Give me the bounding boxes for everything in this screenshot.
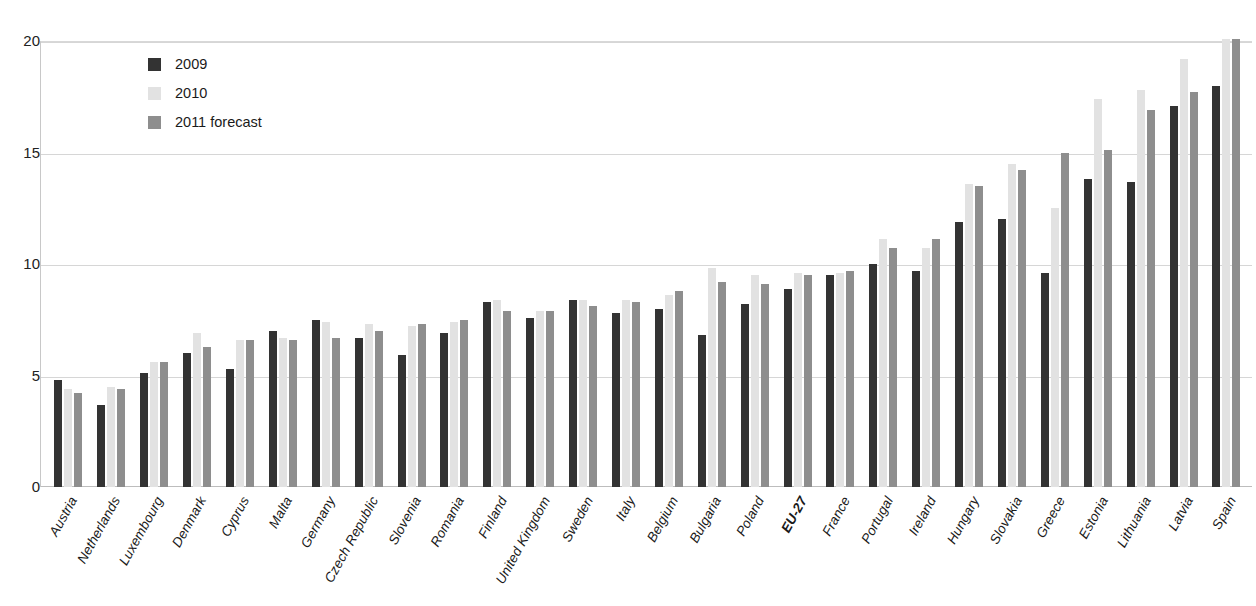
x-axis-tick-label: Greece xyxy=(1033,494,1068,541)
x-axis-tick-label: Poland xyxy=(734,494,768,539)
bar xyxy=(1018,170,1026,487)
x-axis-label-cell: Romania xyxy=(432,490,475,606)
bar-group xyxy=(347,42,390,487)
x-axis-label-cell: Spain xyxy=(1205,490,1248,606)
bar xyxy=(1147,110,1155,487)
bar-group xyxy=(948,42,991,487)
bar-group xyxy=(47,42,90,487)
bar xyxy=(794,273,802,487)
bar xyxy=(1180,59,1188,487)
bar xyxy=(526,318,534,487)
x-axis-tick-label: Cyprus xyxy=(218,494,252,539)
bar xyxy=(889,248,897,487)
x-axis-tick-label: Spain xyxy=(1209,494,1239,532)
bar xyxy=(836,273,844,487)
bar xyxy=(912,271,920,487)
x-axis-label-cell: Denmark xyxy=(175,490,218,606)
bar xyxy=(718,282,726,487)
bar xyxy=(117,389,125,487)
bar xyxy=(246,340,254,487)
x-axis-tick-label: Latvia xyxy=(1166,494,1197,533)
x-axis-label-cell: Poland xyxy=(733,490,776,606)
bar xyxy=(107,387,115,487)
x-axis-tick-label: Bulgaria xyxy=(687,494,725,545)
x-axis-labels: AustriaNetherlandsLuxembourgDenmarkCypru… xyxy=(40,490,1252,606)
x-axis-label-cell: Bulgaria xyxy=(690,490,733,606)
bar-group xyxy=(1076,42,1119,487)
bar xyxy=(1222,39,1230,487)
bar xyxy=(622,300,630,487)
bar xyxy=(708,268,716,487)
bar xyxy=(1170,106,1178,487)
bar xyxy=(826,275,834,487)
x-axis-tick-label: France xyxy=(819,494,853,539)
x-axis-label-cell: Slovakia xyxy=(990,490,1033,606)
bar-group xyxy=(605,42,648,487)
bar-group xyxy=(819,42,862,487)
x-axis-label-cell: Belgium xyxy=(647,490,690,606)
bar xyxy=(418,324,426,487)
x-axis-tick-label: Lithuania xyxy=(1113,494,1153,550)
x-axis-label-cell: Cyprus xyxy=(218,490,261,606)
x-axis-tick-label: Germany xyxy=(298,494,338,550)
bar xyxy=(160,362,168,487)
x-axis-tick-label: Finland xyxy=(475,494,510,541)
bar-group xyxy=(476,42,519,487)
bar xyxy=(365,324,373,487)
x-axis-tick-label: Slovenia xyxy=(385,494,424,547)
bar-group xyxy=(390,42,433,487)
bar-group xyxy=(905,42,948,487)
bar xyxy=(998,219,1006,487)
bar xyxy=(665,295,673,487)
bar xyxy=(932,239,940,487)
bar xyxy=(236,340,244,487)
x-axis-label-cell: Luxembourg xyxy=(132,490,175,606)
bar xyxy=(355,338,363,487)
bar xyxy=(408,326,416,487)
bar-group xyxy=(261,42,304,487)
x-axis-label-cell: United Kingdom xyxy=(518,490,561,606)
bar xyxy=(269,331,277,487)
x-axis-label-cell: EU-27 xyxy=(776,490,819,606)
bar xyxy=(879,239,887,487)
bar xyxy=(312,320,320,487)
bar xyxy=(483,302,491,487)
bar-group xyxy=(433,42,476,487)
bar xyxy=(589,306,597,487)
legend-item[interactable]: 2009 xyxy=(148,56,262,72)
bar xyxy=(183,353,191,487)
bar-chart: 05101520 200920102011 forecast AustriaNe… xyxy=(0,0,1256,606)
bar-group xyxy=(1119,42,1162,487)
bar xyxy=(440,333,448,487)
bar xyxy=(150,362,158,487)
bar xyxy=(965,184,973,487)
x-axis-label-cell: France xyxy=(819,490,862,606)
y-axis-tick-label: 5 xyxy=(6,367,40,384)
bar xyxy=(922,248,930,487)
x-axis-label-cell: Hungary xyxy=(947,490,990,606)
legend-item[interactable]: 2010 xyxy=(148,85,262,101)
legend-swatch-icon xyxy=(148,58,161,71)
legend-item[interactable]: 2011 forecast xyxy=(148,114,262,130)
bar xyxy=(1212,86,1220,487)
bar xyxy=(193,333,201,487)
bar xyxy=(804,275,812,487)
bar-group xyxy=(647,42,690,487)
bar xyxy=(493,300,501,487)
x-axis-tick-label: Portugal xyxy=(858,494,896,546)
bar xyxy=(322,322,330,487)
bar xyxy=(579,300,587,487)
legend-swatch-icon xyxy=(148,87,161,100)
bar xyxy=(1104,150,1112,487)
bar xyxy=(955,222,963,487)
bar xyxy=(1061,153,1069,488)
bar xyxy=(74,393,82,487)
bar xyxy=(64,389,72,487)
x-axis-tick-label: Italy xyxy=(613,494,638,523)
x-axis-label-cell: Czech Republic xyxy=(346,490,389,606)
x-axis-label-cell: Malta xyxy=(261,490,304,606)
x-axis-tick-label: Ireland xyxy=(906,494,939,538)
bar-group xyxy=(690,42,733,487)
bar xyxy=(1232,39,1240,487)
bar xyxy=(751,275,759,487)
